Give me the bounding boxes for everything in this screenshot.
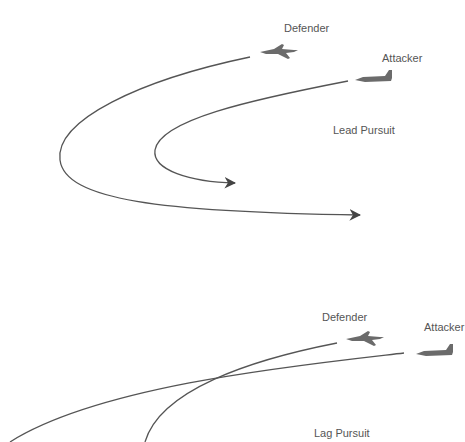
defender-aircraft-icon [260, 44, 298, 59]
pursuit-diagram [0, 0, 465, 442]
lead-pursuit-title: Lead Pursuit [333, 124, 395, 136]
attacker-label: Attacker [424, 321, 464, 333]
attacker-path [155, 81, 348, 183]
defender-label: Defender [322, 311, 367, 323]
defender-path [145, 343, 337, 442]
attacker-aircraft-icon [416, 344, 453, 356]
lag-pursuit-title: Lag Pursuit [314, 427, 370, 439]
attacker-aircraft-icon [355, 70, 392, 82]
defender-path [60, 57, 360, 215]
lag-pursuit-panel [10, 331, 453, 442]
defender-aircraft-icon [346, 331, 384, 346]
attacker-label: Attacker [382, 52, 422, 64]
defender-label: Defender [284, 22, 329, 34]
